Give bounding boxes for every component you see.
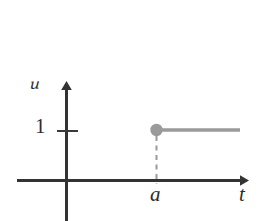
y-axis-label: ᵤ	[30, 67, 40, 93]
step-start-marker	[150, 124, 162, 136]
x-axis-label: t	[239, 184, 245, 205]
step-function-figure: ᵤ 1 a t	[0, 0, 272, 221]
x-tick-label-a: a	[150, 184, 161, 205]
plot-canvas	[0, 0, 272, 221]
x-axis	[17, 175, 249, 186]
y-axis	[61, 81, 72, 221]
y-tick-label-one: 1	[35, 116, 46, 137]
y-axis-arrowhead	[61, 81, 72, 90]
